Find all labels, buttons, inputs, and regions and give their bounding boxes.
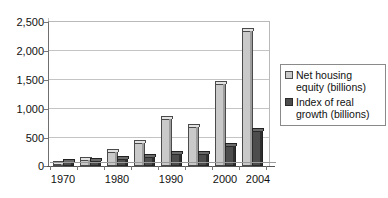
x-axis-tick-mark [239,166,240,170]
x-axis-tick-label: 2004 [246,174,270,185]
y-axis-tick-label: 1,000 [16,104,44,115]
chart-legend: Net housing equity (billions) Index of r… [280,64,386,126]
x-axis-line [47,166,275,167]
x-axis-tick-mark [50,166,51,170]
x-axis-tick-mark [104,166,105,170]
legend-entry-index-of-real-growth: Index of real growth (billions) [285,96,381,120]
x-axis-depth-line [50,162,276,163]
legend-entry-label: Index of real growth (billions) [296,96,381,120]
gridline [49,50,269,51]
x-axis-tick-mark [212,166,213,170]
x-axis-tick-label: 2000 [213,174,237,185]
bar-chart-figure: 2,500 2,000 1,500 1,000 500 0 1970 1980 … [0,0,388,198]
x-axis-tick-mark [185,166,186,170]
legend-entry-net-housing-equity: Net housing equity (billions) [285,69,381,93]
x-axis-tick-label: 1970 [51,174,75,185]
legend-entry-label: Net housing equity (billions) [296,69,381,93]
legend-swatch-icon [285,71,293,79]
x-axis-tick-mark [266,166,267,170]
y-axis-tick-label: 500 [26,133,44,144]
plot-area [48,21,270,167]
x-axis-tick-mark [77,166,78,170]
gridline [49,137,269,138]
y-axis-tick-label: 1,500 [16,75,44,86]
x-axis-tick-mark [158,166,159,170]
gridline [49,79,269,80]
y-axis-tick-label: 2,500 [16,17,44,28]
gridline [49,108,269,109]
x-axis-tick-label: 1980 [105,174,129,185]
legend-swatch-icon [285,98,293,106]
x-axis-tick-label: 1990 [159,174,183,185]
y-axis-tick-label: 2,000 [16,46,44,57]
x-axis-label-group: 1970 1980 1990 2000 2004 [0,174,388,194]
x-axis-tick-mark [131,166,132,170]
y-axis-label-group: 2,500 2,000 1,500 1,000 500 0 [0,0,44,198]
